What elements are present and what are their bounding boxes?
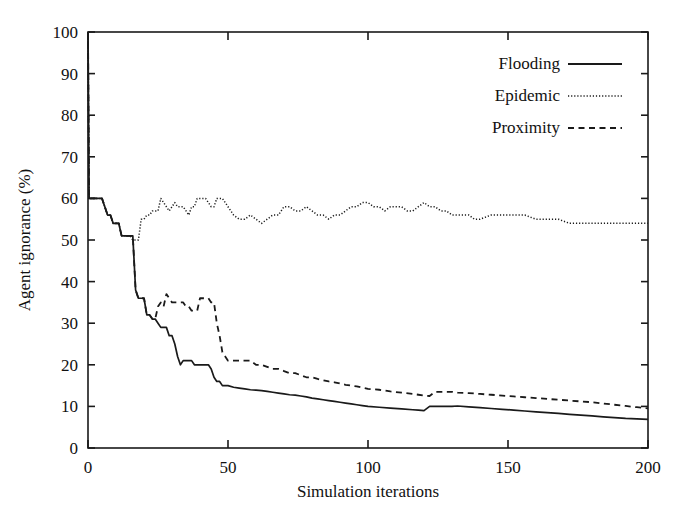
legend-label-flooding: Flooding (499, 54, 561, 73)
y-tick-label: 60 (61, 189, 78, 208)
x-tick-label: 0 (84, 458, 93, 477)
y-tick-label: 40 (61, 273, 78, 292)
legend-label-proximity: Proximity (492, 118, 561, 137)
series-line-epidemic (88, 32, 648, 240)
y-tick-label: 80 (61, 106, 78, 125)
x-tick-label: 50 (220, 458, 237, 477)
series-line-proximity (88, 32, 648, 408)
y-axis-tick-labels: 0102030405060708090100 (53, 23, 79, 458)
y-tick-label: 20 (61, 356, 78, 375)
plot-frame (88, 32, 648, 448)
legend-label-epidemic: Epidemic (495, 86, 561, 105)
y-tick-label: 90 (61, 65, 78, 84)
line-chart: 0102030405060708090100 050100150200 Agen… (0, 0, 691, 520)
y-tick-label: 30 (61, 314, 78, 333)
x-tick-label: 200 (635, 458, 661, 477)
x-axis-title: Simulation iterations (297, 482, 439, 501)
y-tick-label: 50 (61, 231, 78, 250)
y-tick-label: 100 (53, 23, 79, 42)
x-axis-tick-labels: 050100150200 (84, 458, 661, 477)
data-series-group (88, 32, 648, 419)
x-tick-label: 150 (495, 458, 521, 477)
series-line-flooding (88, 32, 648, 419)
chart-legend: FloodingEpidemicProximity (492, 54, 622, 137)
y-tick-label: 0 (70, 439, 79, 458)
y-tick-label: 70 (61, 148, 78, 167)
y-axis-title: Agent ignorance (%) (15, 169, 34, 312)
chart-container: 0102030405060708090100 050100150200 Agen… (0, 0, 691, 520)
y-axis-ticks (88, 32, 648, 448)
y-tick-label: 10 (61, 397, 78, 416)
x-tick-label: 100 (355, 458, 381, 477)
x-axis-ticks (88, 32, 648, 448)
